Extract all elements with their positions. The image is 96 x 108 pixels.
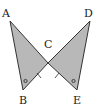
label-d: D bbox=[84, 7, 93, 20]
label-a: A bbox=[1, 7, 11, 20]
tick-mark-cb bbox=[37, 73, 41, 78]
triangle-dec bbox=[48, 21, 90, 90]
tick-mark-ce bbox=[55, 73, 59, 78]
label-c: C bbox=[44, 38, 52, 51]
geometry-diagram: A B C D E bbox=[0, 0, 96, 108]
label-e: E bbox=[73, 94, 81, 107]
label-b: B bbox=[19, 94, 27, 107]
triangle-abc bbox=[10, 21, 48, 90]
